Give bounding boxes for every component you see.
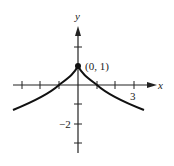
point-label: (0, 1) — [85, 60, 109, 73]
x-axis-label: x — [157, 79, 163, 91]
graph: y x (0, 1) 3 −2 — [0, 0, 174, 166]
x-tick-label-3: 3 — [130, 90, 136, 102]
point-marker — [75, 63, 81, 69]
y-axis-arrow-icon — [75, 26, 81, 36]
y-axis-label: y — [74, 10, 80, 22]
x-axis-arrow-icon — [147, 82, 157, 88]
y-tick-label-neg2: −2 — [59, 118, 71, 130]
